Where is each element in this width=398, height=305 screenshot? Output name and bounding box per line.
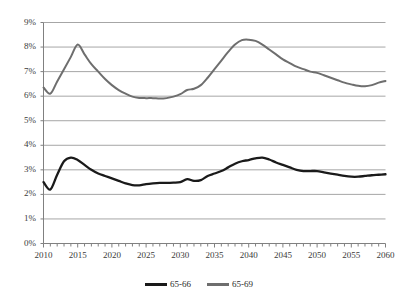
- tick-marks-group: [41, 23, 386, 248]
- y-axis-tick-label: 5%: [8, 115, 36, 125]
- y-axis-tick-label: 7%: [8, 66, 36, 76]
- chart-legend: 65-6665-69: [0, 279, 398, 289]
- y-axis-tick-label: 0%: [8, 238, 36, 248]
- x-axis-tick-label: 2060: [366, 250, 398, 260]
- legend-entry-65-69[interactable]: 65-69: [207, 279, 253, 289]
- y-axis-tick-label: 1%: [8, 213, 36, 223]
- y-axis-tick-label: 2%: [8, 188, 36, 198]
- line-chart: 0%1%2%3%4%5%6%7%8%9% 2010201520202025203…: [0, 0, 398, 305]
- legend-label: 65-66: [170, 279, 191, 289]
- legend-label: 65-69: [232, 279, 253, 289]
- y-axis-tick-label: 8%: [8, 41, 36, 51]
- series-line-65-66: [44, 158, 386, 190]
- y-axis-tick-label: 3%: [8, 164, 36, 174]
- axes-group: [44, 23, 386, 244]
- gridlines-group: [44, 23, 386, 219]
- y-axis-tick-label: 6%: [8, 90, 36, 100]
- legend-entry-65-66[interactable]: 65-66: [145, 279, 191, 289]
- series-line-65-69: [44, 40, 386, 99]
- y-axis-tick-label: 4%: [8, 139, 36, 149]
- series-group: [44, 40, 386, 190]
- y-axis-tick-label: 9%: [8, 17, 36, 27]
- legend-line-swatch-icon: [207, 283, 229, 286]
- legend-line-swatch-icon: [145, 283, 167, 286]
